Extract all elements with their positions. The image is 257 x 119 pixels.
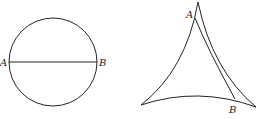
- label-b-right: B: [228, 104, 236, 115]
- curvilinear-triangle-figure: A B: [141, 2, 256, 115]
- chord-ab: [195, 18, 235, 99]
- circle-figure: A B: [0, 18, 106, 106]
- triangle-right-side: [198, 2, 256, 107]
- label-b-left: B: [98, 57, 106, 68]
- diagram-canvas: A B A B: [0, 0, 257, 119]
- triangle-bottom-side: [141, 96, 256, 107]
- label-a-right: A: [185, 9, 193, 20]
- label-a-left: A: [0, 57, 7, 68]
